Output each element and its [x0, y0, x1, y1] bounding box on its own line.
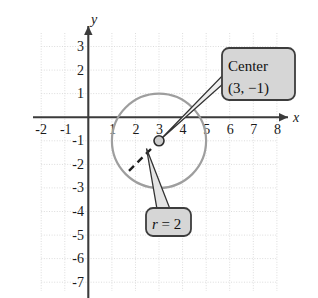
center-point-marker [154, 136, 164, 146]
x-tick-label: 4 [180, 122, 187, 137]
x-tick-label: 3 [156, 122, 163, 137]
center-callout-pointer [161, 74, 225, 140]
center-callout-line1: Center [228, 58, 268, 74]
center-callout[interactable]: Center (3, −1) [222, 48, 295, 100]
x-tick-label: 7 [250, 122, 257, 137]
y-tick-label: 1 [77, 86, 84, 101]
y-tick-label: -1 [72, 133, 84, 148]
y-tick-labels: 3 2 1 -1 -2 -3 -4 -5 -6 -7 [72, 39, 84, 290]
x-tick-label: 2 [133, 122, 140, 137]
circle-graph-figure: x y -2 -1 1 2 3 4 5 6 7 8 3 2 1 -1 -2 -3… [0, 0, 318, 298]
y-tick-label: 3 [77, 39, 84, 54]
y-tick-label: -7 [72, 275, 84, 290]
x-tick-label: -2 [35, 122, 47, 137]
y-tick-label: -2 [72, 157, 84, 172]
y-tick-label: 2 [77, 63, 84, 78]
y-tick-label: -6 [72, 251, 84, 266]
radius-callout[interactable]: r = 2 [146, 208, 191, 236]
x-tick-label: 6 [227, 122, 234, 137]
x-axis-arrowhead [279, 113, 288, 121]
radius-callout-text: r = 2 [152, 216, 181, 232]
y-axis-arrowhead [84, 26, 92, 35]
y-tick-label: -3 [72, 180, 84, 195]
x-axis-label: x [292, 110, 300, 125]
radius-value: = 2 [158, 216, 181, 232]
y-tick-label: -4 [72, 204, 84, 219]
center-callout-line2: (3, −1) [228, 80, 269, 97]
y-axis-label: y [89, 12, 98, 27]
x-tick-label: -1 [60, 122, 72, 137]
y-tick-label: -5 [72, 228, 84, 243]
coordinate-plane-svg: x y -2 -1 1 2 3 4 5 6 7 8 3 2 1 -1 -2 -3… [0, 0, 318, 298]
x-tick-label: 8 [274, 122, 281, 137]
radius-callout-pointer [147, 149, 171, 210]
